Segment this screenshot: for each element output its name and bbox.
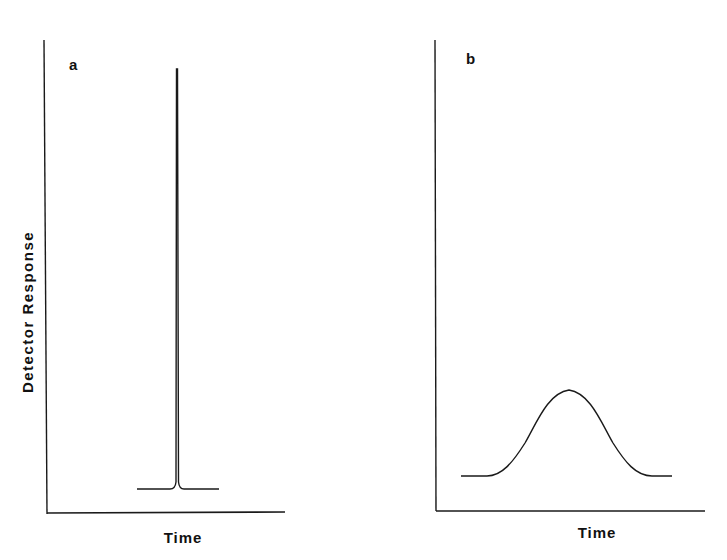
panel-a-x-axis-label: Time: [164, 529, 203, 546]
y-axis-label: Detector Response: [19, 231, 36, 393]
panel-a: a Time Detector Response: [19, 40, 285, 546]
panel-a-label: a: [69, 56, 78, 73]
panel-b-broad-peak: [461, 390, 672, 476]
panel-a-y-axis: [44, 40, 47, 514]
panel-b-x-axis-label: Time: [578, 524, 617, 541]
panel-a-sharp-peak: [137, 69, 219, 489]
panel-b-label: b: [466, 50, 475, 67]
panel-a-x-axis: [47, 512, 285, 513]
figure-canvas: a Time Detector Response b Time: [0, 0, 727, 560]
panel-b: b Time: [435, 40, 705, 541]
panel-b-y-axis: [435, 40, 436, 511]
